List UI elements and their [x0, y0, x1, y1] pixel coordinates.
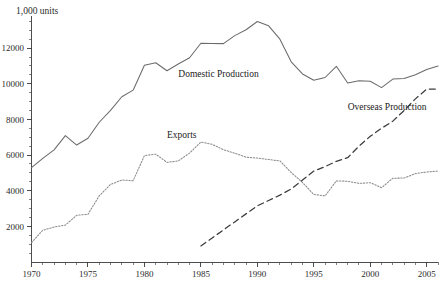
x-axis-tick-label: 1975	[79, 269, 98, 279]
annotation-domestic-production: Domestic Production	[178, 69, 259, 79]
axes-layer	[32, 16, 439, 262]
y-axis-tick-label: 2000	[6, 222, 25, 232]
annotation-exports: Exports	[167, 130, 197, 140]
y-axis-tick-label: 4000	[6, 186, 25, 196]
series-line-overseas-production	[201, 89, 438, 246]
y-axis-tick-label: 8000	[6, 115, 25, 125]
series-line-exports	[32, 142, 439, 243]
x-axis-tick-label: 2000	[361, 269, 380, 279]
y-axis-tick-label: 12000	[2, 43, 25, 53]
x-axis-tick-label: 1985	[192, 269, 211, 279]
line-chart: 2000400060008000100001200019701975198019…	[0, 0, 445, 286]
axis-ticks-layer	[27, 21, 438, 266]
chart-container: 2000400060008000100001200019701975198019…	[0, 0, 445, 286]
series-annotations-layer: 1,000 unitsDomestic ProductionExportsOve…	[16, 6, 427, 140]
x-axis-tick-label: 2005	[418, 269, 437, 279]
x-axis-tick-label: 1970	[23, 269, 42, 279]
y-axis-tick-label: 10000	[2, 79, 25, 89]
x-axis-tick-label: 1995	[305, 269, 324, 279]
annotation-overseas-production: Overseas Production	[348, 102, 427, 112]
series-layer	[32, 22, 439, 246]
x-axis-tick-label: 1980	[135, 269, 154, 279]
y-axis-unit-label: 1,000 units	[16, 6, 59, 16]
series-line-domestic-production	[32, 22, 439, 168]
y-axis-tick-label: 6000	[6, 150, 25, 160]
x-axis-tick-label: 1990	[248, 269, 267, 279]
